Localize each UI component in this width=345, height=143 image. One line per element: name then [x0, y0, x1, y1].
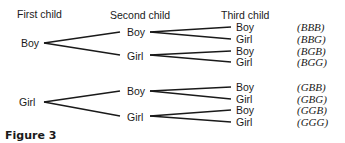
third-child-label: Boy: [236, 105, 254, 116]
outcome-label: (GBB): [297, 82, 326, 93]
second-child-label: Girl: [127, 112, 143, 123]
tree-branches: [0, 0, 345, 143]
outcome-label: (BBG): [297, 34, 326, 45]
second-child-label: Girl: [127, 51, 143, 62]
third-child-label: Girl: [236, 34, 252, 45]
third-child-label: Girl: [236, 94, 252, 105]
header-first-child: First child: [17, 9, 62, 20]
first-child-boy: Boy: [21, 38, 39, 49]
outcome-label: (GGG): [297, 117, 328, 128]
third-child-label: Boy: [236, 22, 254, 33]
first-child-girl: Girl: [19, 97, 35, 108]
header-third-child: Third child: [221, 10, 269, 21]
outcome-label: (BGG): [297, 57, 327, 68]
outcome-label: (BBB): [297, 22, 324, 33]
second-child-label: Boy: [127, 27, 145, 38]
third-child-label: Girl: [236, 57, 252, 68]
figure-caption: Figure 3: [5, 130, 56, 141]
third-child-label: Girl: [236, 117, 252, 128]
second-child-label: Boy: [127, 86, 145, 97]
third-child-label: Boy: [236, 46, 254, 57]
third-child-label: Boy: [236, 82, 254, 93]
header-second-child: Second child: [110, 10, 170, 21]
outcome-label: (GGB): [297, 105, 327, 116]
